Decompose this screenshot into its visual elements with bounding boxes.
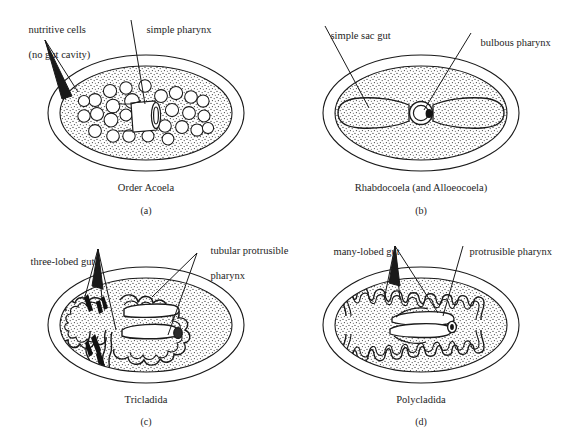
label-three-lobed-gut-line1: three-lobed gut xyxy=(31,256,95,267)
panel-letter-a: (a) xyxy=(46,205,246,216)
label-simple-sac-gut: simple sac gut xyxy=(320,17,391,55)
label-nutritive-cells-line1: nutritive cells xyxy=(29,24,86,35)
partial-bottom-caption xyxy=(24,434,384,440)
label-protrusible-pharynx-line1: protrusible pharynx xyxy=(470,246,553,257)
label-bulbous-pharynx: bulbous pharynx xyxy=(470,24,551,62)
caption-panel-d: Polycladida xyxy=(321,394,521,405)
label-tubular-protrusible-pharynx-line2: pharynx xyxy=(211,270,245,281)
label-tubular-protrusible-pharynx: tubular protrusible pharynx xyxy=(200,232,288,295)
label-three-lobed-gut: three-lobed gut xyxy=(20,243,94,281)
panel-letter-c: (c) xyxy=(46,416,246,427)
label-simple-pharynx: simple pharynx xyxy=(136,11,212,49)
label-protrusible-pharynx: protrusible pharynx xyxy=(459,233,552,271)
label-simple-pharynx-line1: simple pharynx xyxy=(147,24,212,35)
label-tubular-protrusible-pharynx-line1: tubular protrusible xyxy=(211,245,289,256)
label-bulbous-pharynx-line1: bulbous pharynx xyxy=(481,37,551,48)
label-many-lobed-gut-line1: many-lobed gut xyxy=(334,246,400,257)
label-many-lobed-gut: many-lobed gut xyxy=(323,233,400,271)
caption-panel-b: Rhabdocoela (and Alloeocoela) xyxy=(321,182,521,193)
panel-letter-d: (d) xyxy=(321,416,521,427)
label-nutritive-cells: nutritive cells (no gut cavity) xyxy=(18,11,90,74)
label-nutritive-cells-line2: (no gut cavity) xyxy=(29,49,91,60)
caption-panel-c: Tricladida xyxy=(46,394,246,405)
caption-panel-a: Order Acoela xyxy=(46,182,246,193)
flatworm-gut-figure: nutritive cells (no gut cavity) simple p… xyxy=(0,0,567,443)
panel-letter-b: (b) xyxy=(321,205,521,216)
label-simple-sac-gut-line1: simple sac gut xyxy=(331,30,391,41)
